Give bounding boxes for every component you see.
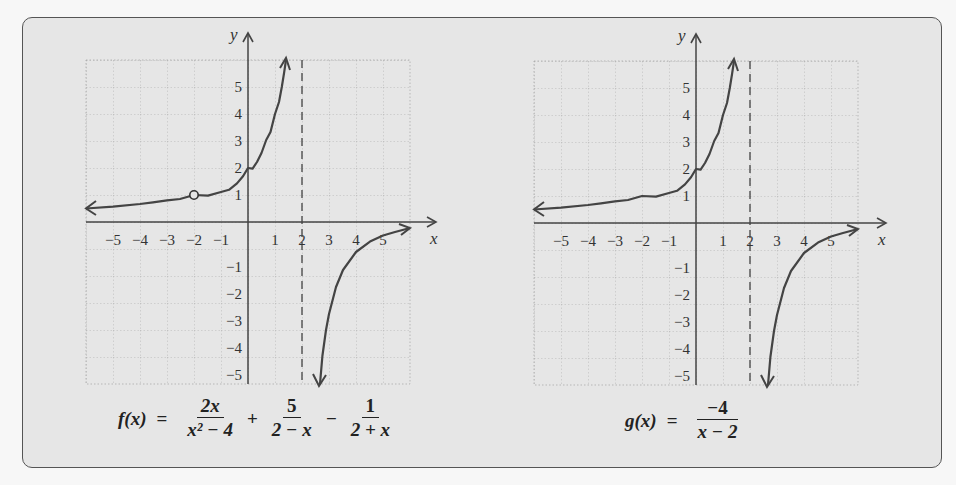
svg-text:1: 1 xyxy=(719,233,727,249)
operator: − xyxy=(326,408,337,430)
svg-text:2: 2 xyxy=(746,233,754,249)
svg-text:4: 4 xyxy=(683,107,691,123)
svg-text:−3: −3 xyxy=(674,314,690,330)
fraction-term: 1 2 + x xyxy=(347,396,394,441)
svg-text:2: 2 xyxy=(683,161,691,177)
equals-sign: = xyxy=(156,408,167,430)
denominator: x − 2 xyxy=(693,420,741,443)
graph-g: x y −5 −4 −3 −2 −1 1 2 3 4 5 1 2 3 4 5 −… xyxy=(534,26,886,385)
svg-text:1: 1 xyxy=(235,187,243,203)
denominator: 2 + x xyxy=(347,418,394,441)
operator: + xyxy=(247,408,258,430)
fraction-term: −4 x − 2 xyxy=(693,398,741,443)
svg-text:3: 3 xyxy=(325,232,333,248)
svg-text:3: 3 xyxy=(773,233,781,249)
svg-text:1: 1 xyxy=(271,232,279,248)
svg-text:−4: −4 xyxy=(674,341,690,357)
numerator: 1 xyxy=(362,396,380,418)
svg-text:−4: −4 xyxy=(580,233,596,249)
svg-text:3: 3 xyxy=(683,134,691,150)
formula-lhs: f(x) xyxy=(118,408,146,430)
formula-f: f(x) = 2x x² − 4 + 5 2 − x − 1 2 + x xyxy=(118,396,400,441)
svg-text:−3: −3 xyxy=(226,313,242,329)
hole-marker xyxy=(190,191,198,199)
svg-text:−2: −2 xyxy=(674,287,690,303)
svg-text:−2: −2 xyxy=(634,233,650,249)
svg-text:−1: −1 xyxy=(213,232,229,248)
numerator: −4 xyxy=(697,398,737,420)
formula-g: g(x) = −4 x − 2 xyxy=(625,398,748,443)
graph-f: x y −5 −4 −3 −2 −1 1 2 3 4 5 1 2 3 4 5 −… xyxy=(86,25,438,384)
denominator: 2 − x xyxy=(268,418,316,441)
svg-text:−1: −1 xyxy=(674,260,690,276)
numerator: 2x xyxy=(197,396,224,418)
svg-text:−5: −5 xyxy=(105,232,121,248)
svg-text:−3: −3 xyxy=(607,233,623,249)
fraction-term: 2x x² − 4 xyxy=(183,396,237,441)
svg-text:2: 2 xyxy=(235,160,243,176)
y-axis-label: y xyxy=(228,25,238,44)
denominator: x² − 4 xyxy=(183,418,237,441)
numerator: 5 xyxy=(283,396,301,418)
svg-text:−5: −5 xyxy=(674,368,690,384)
y-axis-label: y xyxy=(676,26,686,45)
svg-text:3: 3 xyxy=(235,133,243,149)
svg-text:−4: −4 xyxy=(226,340,242,356)
svg-text:4: 4 xyxy=(800,233,808,249)
svg-text:−5: −5 xyxy=(226,367,242,383)
svg-text:1: 1 xyxy=(683,188,691,204)
svg-text:5: 5 xyxy=(683,80,691,96)
x-axis-label: x xyxy=(429,229,438,248)
svg-text:−2: −2 xyxy=(186,232,202,248)
svg-text:4: 4 xyxy=(235,106,243,122)
fraction-term: 5 2 − x xyxy=(268,396,316,441)
svg-text:4: 4 xyxy=(352,232,360,248)
svg-text:−3: −3 xyxy=(159,232,175,248)
svg-text:−1: −1 xyxy=(661,233,677,249)
svg-text:−1: −1 xyxy=(226,259,242,275)
svg-text:2: 2 xyxy=(298,232,306,248)
svg-text:5: 5 xyxy=(235,79,243,95)
svg-text:−5: −5 xyxy=(553,233,569,249)
equals-sign: = xyxy=(667,410,678,432)
formula-lhs: g(x) xyxy=(625,410,657,432)
svg-text:−2: −2 xyxy=(226,286,242,302)
x-axis-label: x xyxy=(877,230,886,249)
svg-text:−4: −4 xyxy=(132,232,148,248)
